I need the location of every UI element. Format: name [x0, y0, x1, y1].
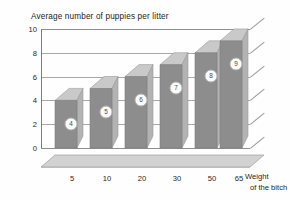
- bar-value-badge: 9: [230, 58, 243, 71]
- bar-side-7: [182, 53, 188, 148]
- bar-side-6: [147, 65, 153, 148]
- bar-value-badge: 7: [170, 82, 183, 95]
- x-tick-label: 30: [162, 174, 192, 183]
- x-tick-label: 50: [197, 174, 227, 183]
- bar-value-badge: 8: [205, 70, 218, 83]
- x-axis-title-line1: Weight: [245, 172, 269, 181]
- bar-side-9: [242, 29, 248, 148]
- bar-group: [160, 53, 188, 148]
- x-axis-title: Weight of the bitch: [245, 172, 287, 193]
- chart-container: Average number of puppies per litter 10 …: [0, 0, 290, 200]
- bar-value-badge: 4: [65, 118, 78, 131]
- bar-side-5: [112, 77, 118, 149]
- bar-value-badge: 5: [100, 106, 113, 119]
- x-tick-label: 5: [57, 174, 87, 183]
- bar-front-6: [125, 77, 147, 148]
- bar-front-8: [195, 53, 217, 148]
- bar-group: [195, 41, 223, 148]
- bar-front-7: [160, 65, 182, 148]
- x-axis-title-line2: of the bitch: [245, 183, 287, 194]
- bar-front-5: [90, 89, 112, 149]
- x-tick-label: 10: [92, 174, 122, 183]
- bar-value-badge: 6: [135, 94, 148, 107]
- bar-group: [220, 29, 248, 148]
- x-tick-label: 20: [127, 174, 157, 183]
- bar-front-9: [220, 41, 242, 148]
